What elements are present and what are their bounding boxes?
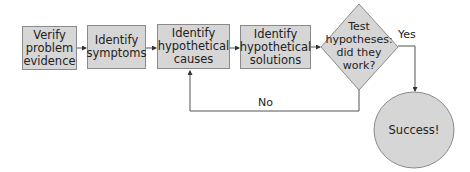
troubleshooting-flowchart: Verify problem evidence Identify symptom… xyxy=(0,0,470,172)
arrow-no-loop xyxy=(190,71,359,111)
step-text: Identify xyxy=(240,28,312,41)
step-text: evidence xyxy=(23,55,75,68)
step-text: solutions xyxy=(240,54,312,67)
step-verify-problem-evidence: Verify problem evidence xyxy=(22,26,77,70)
success-text: Success! xyxy=(374,123,454,137)
no-label: No xyxy=(258,96,273,109)
step-text: Verify xyxy=(23,29,75,42)
step-text: symptoms xyxy=(86,47,146,60)
arrow-yes xyxy=(398,46,415,91)
yes-label: Yes xyxy=(398,28,416,41)
step-identify-symptoms: Identify symptoms xyxy=(87,25,146,69)
decision-text: Test hypotheses: did they work? xyxy=(319,20,399,72)
step-identify-hypothetical-solutions: Identify hypothetical solutions xyxy=(240,25,311,69)
step-text: problem xyxy=(23,42,75,55)
step-text: causes xyxy=(158,53,230,66)
step-identify-hypothetical-causes: Identify hypothetical causes xyxy=(157,24,230,69)
step-text: hypothetical xyxy=(240,41,312,54)
